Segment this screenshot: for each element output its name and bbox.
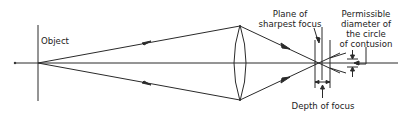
arrow-icon bbox=[351, 55, 355, 59]
ray-upper-outgoing bbox=[240, 26, 340, 73]
arrow-icon bbox=[351, 67, 355, 71]
arrow-icon bbox=[321, 85, 325, 89]
depth-label: Depth of focus bbox=[290, 101, 356, 111]
ray-lower-outgoing bbox=[240, 53, 340, 100]
plane-label-line1: Plane of bbox=[257, 9, 323, 19]
ray-lower-incoming bbox=[38, 63, 240, 100]
coc-label-line3: the circle bbox=[335, 29, 397, 39]
coc-label-line4: of contusion bbox=[335, 39, 397, 49]
coc-label-line1: Permissible bbox=[335, 9, 397, 19]
arrow-icon bbox=[316, 37, 320, 43]
arrow-icon bbox=[281, 43, 290, 49]
arrow-icon bbox=[281, 77, 290, 83]
object-label: Object bbox=[41, 36, 69, 46]
arrow-icon bbox=[315, 81, 319, 84]
arrow-icon bbox=[326, 81, 330, 84]
plane-label-line2: sharpest focus bbox=[257, 19, 323, 29]
coc-label-line2: diameter of bbox=[335, 19, 397, 29]
arrow-icon bbox=[354, 61, 359, 65]
axis-start-dot bbox=[14, 62, 16, 64]
